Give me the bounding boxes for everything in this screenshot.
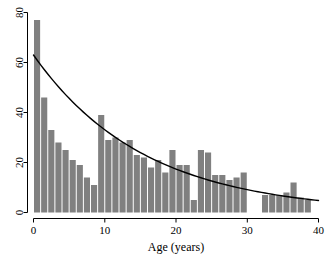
histogram-bar [84, 178, 90, 213]
x-axis-tick-label: 30 [242, 224, 254, 236]
histogram-bar [219, 175, 225, 213]
histogram-bar [262, 195, 268, 213]
histogram-bar [70, 160, 76, 213]
histogram-bar [134, 155, 140, 213]
histogram-bar [276, 195, 282, 213]
histogram-bar [269, 195, 275, 213]
histogram-bar [127, 140, 133, 213]
age-histogram-chart: 020406080010203040Age (years) [0, 0, 326, 254]
histogram-bar [120, 143, 126, 213]
x-axis-tick-label: 20 [171, 224, 183, 236]
x-axis-tick-label: 40 [313, 224, 325, 236]
histogram-bar [305, 200, 311, 213]
histogram-bar [162, 173, 168, 213]
y-axis-tick-label: 0 [13, 209, 25, 215]
histogram-bar [98, 115, 104, 213]
histogram-bar [34, 20, 40, 213]
histogram-bar [198, 150, 204, 213]
histogram-bar [112, 138, 118, 213]
histogram-figure: 020406080010203040Age (years) [0, 0, 326, 254]
histogram-bar [77, 165, 83, 213]
histogram-bar [141, 158, 147, 213]
histogram-bar [48, 130, 54, 213]
histogram-bar [148, 168, 154, 213]
histogram-bar [41, 98, 47, 213]
x-axis-title: Age (years) [148, 240, 204, 254]
y-axis-tick-label: 60 [13, 57, 25, 69]
histogram-bar [169, 150, 175, 213]
histogram-bar [55, 143, 61, 213]
histogram-bar [298, 198, 304, 213]
y-axis-tick-label: 40 [13, 107, 25, 119]
histogram-bar [191, 200, 197, 213]
x-axis-tick-label: 10 [99, 224, 111, 236]
x-axis-tick-label: 0 [31, 224, 37, 236]
histogram-bar [212, 175, 218, 213]
histogram-bar [155, 160, 161, 213]
histogram-bar [234, 178, 240, 213]
histogram-bar [105, 140, 111, 213]
histogram-bar [241, 173, 247, 213]
y-axis-tick-label: 80 [13, 7, 25, 19]
histogram-bar [91, 185, 97, 213]
histogram-bar [205, 153, 211, 213]
chart-background [0, 0, 326, 254]
histogram-bar [177, 165, 183, 213]
y-axis-tick-label: 20 [13, 157, 25, 169]
histogram-bar [63, 150, 69, 213]
